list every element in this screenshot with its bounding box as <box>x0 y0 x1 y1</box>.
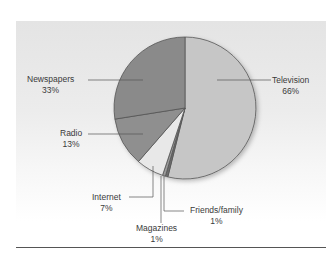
slice-newspapers <box>114 37 185 119</box>
label-name: Internet <box>92 192 121 203</box>
label-name: Magazines <box>136 223 177 234</box>
label-value: 33% <box>27 85 74 96</box>
label-name: Newspapers <box>27 74 74 85</box>
label-name: Television <box>272 75 309 86</box>
label-name: Friends/family <box>190 205 243 216</box>
label-newspapers: Newspapers 33% <box>27 74 74 96</box>
label-friends-family: Friends/family 1% <box>190 205 243 227</box>
label-magazines: Magazines 1% <box>136 223 177 245</box>
label-television: Television 66% <box>272 75 309 97</box>
label-value: 66% <box>272 86 309 97</box>
label-name: Radio <box>60 128 82 139</box>
label-value: 1% <box>190 216 243 227</box>
leader-internet <box>129 166 153 197</box>
label-internet: Internet 7% <box>92 192 121 214</box>
label-value: 13% <box>60 139 82 150</box>
label-value: 7% <box>92 203 121 214</box>
leader-friends-family <box>164 176 184 211</box>
label-value: 1% <box>136 234 177 245</box>
bottom-rule <box>16 247 326 248</box>
label-radio: Radio 13% <box>60 128 82 150</box>
pie-chart <box>0 0 336 261</box>
